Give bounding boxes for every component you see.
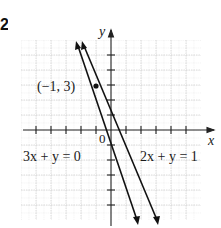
intersection-point [93, 83, 98, 88]
origin-label: 0 [99, 131, 106, 146]
arrow-icon [133, 216, 140, 225]
x-axis-label: x [207, 133, 215, 148]
point-label: (−1, 3) [37, 79, 76, 95]
y-axis-label: y [97, 24, 106, 39]
line1-label: 3x + y = 0 [23, 149, 81, 164]
line2-label: 2x + y = 1 [140, 149, 198, 164]
y-axis-arrow-icon [109, 30, 114, 37]
arrow-icon [153, 216, 160, 225]
x-axis-arrow-icon [207, 128, 214, 133]
graph: (−1, 3) y x 0 3x + y = 0 2x + y = 1 [0, 0, 221, 228]
